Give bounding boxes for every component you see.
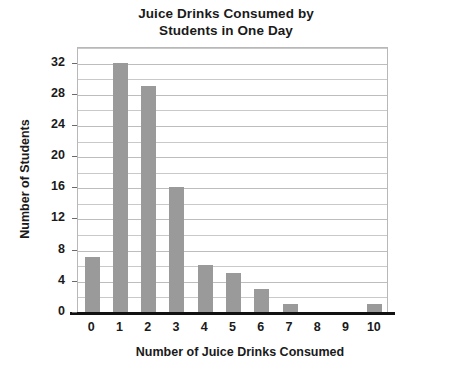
y-tick-label: 28 [39, 86, 65, 100]
bar [283, 304, 298, 312]
x-axis-line [70, 312, 395, 315]
y-tick-label: 20 [39, 148, 65, 162]
x-tick-label: 10 [361, 320, 387, 334]
bar [367, 304, 382, 312]
y-tick-mark [72, 250, 77, 251]
x-tick-label: 9 [333, 320, 359, 334]
y-axis-title: Number of Students [18, 119, 32, 238]
x-axis-title: Number of Juice Drinks Consumed [60, 345, 420, 359]
x-tick-label: 2 [135, 320, 161, 334]
y-tick-label: 16 [39, 179, 65, 193]
y-tick-mark [72, 63, 77, 64]
y-tick-mark [72, 312, 77, 313]
x-tick-label: 0 [78, 320, 104, 334]
y-axis-title-container: Number of Students [14, 48, 36, 310]
x-tick-label: 7 [276, 320, 302, 334]
chart-title-line-1: Juice Drinks Consumed by [0, 5, 452, 22]
x-tick-label: 5 [220, 320, 246, 334]
y-tick-mark [72, 187, 77, 188]
chart-title-line-2: Students in One Day [0, 22, 452, 39]
y-tick-label: 24 [39, 117, 65, 131]
y-tick-label: 0 [39, 304, 65, 318]
y-tick-mark [72, 125, 77, 126]
bar [169, 187, 184, 312]
bar [198, 265, 213, 312]
y-tick-label: 32 [39, 55, 65, 69]
bar-chart: Juice Drinks Consumed by Students in One… [0, 0, 452, 375]
y-tick-mark [72, 281, 77, 282]
y-tick-label: 8 [39, 242, 65, 256]
x-tick-label: 6 [248, 320, 274, 334]
plot-area [77, 47, 388, 312]
x-tick-label: 1 [106, 320, 132, 334]
y-tick-mark [72, 94, 77, 95]
bar [141, 86, 156, 312]
y-tick-mark [72, 156, 77, 157]
y-tick-mark [72, 218, 77, 219]
bars-layer [78, 48, 387, 312]
y-tick-label: 12 [39, 210, 65, 224]
chart-title: Juice Drinks Consumed by Students in One… [0, 5, 452, 39]
x-tick-label: 8 [304, 320, 330, 334]
x-tick-label: 4 [191, 320, 217, 334]
bar [226, 273, 241, 312]
bar [85, 257, 100, 312]
x-tick-label: 3 [163, 320, 189, 334]
y-tick-label: 4 [39, 273, 65, 287]
bar [113, 63, 128, 312]
bar [254, 289, 269, 312]
